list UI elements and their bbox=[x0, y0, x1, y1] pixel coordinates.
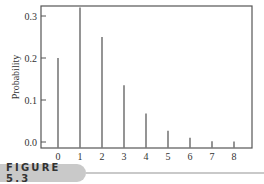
y-tick-label: 0.2 bbox=[25, 53, 38, 64]
probability-chart: 0.00.10.20.3 012345678 Probability bbox=[0, 0, 264, 160]
x-tick-label: 6 bbox=[188, 151, 193, 160]
x-tick-label: 3 bbox=[122, 151, 127, 160]
y-axis: 0.00.10.20.3 bbox=[25, 11, 47, 148]
figure-label: FIGURE 5.3 bbox=[0, 162, 86, 184]
figure-label-banner: FIGURE 5.3 bbox=[0, 164, 86, 182]
x-tick-label: 5 bbox=[166, 151, 171, 160]
y-tick-label: 0.1 bbox=[25, 95, 38, 106]
x-tick-label: 4 bbox=[144, 151, 149, 160]
y-tick-label: 0.3 bbox=[25, 11, 38, 22]
x-tick-label: 0 bbox=[56, 151, 61, 160]
x-tick-label: 1 bbox=[78, 151, 83, 160]
x-tick-label: 8 bbox=[232, 151, 237, 160]
x-tick-label: 7 bbox=[210, 151, 215, 160]
x-axis: 012345678 bbox=[56, 151, 237, 160]
figure-rule-divider bbox=[86, 172, 264, 174]
y-tick-label: 0.0 bbox=[25, 137, 38, 148]
bar-series bbox=[58, 8, 234, 148]
y-axis-title: Probability bbox=[10, 55, 21, 99]
x-tick-label: 2 bbox=[100, 151, 105, 160]
